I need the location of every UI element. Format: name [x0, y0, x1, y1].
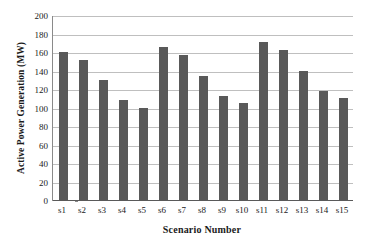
bar-chart: Active Power Generation (MW) 02040608010…: [0, 0, 369, 248]
y-tick-label: 180: [26, 30, 48, 39]
x-axis-tick-labels: s1s2s3s4s5s6s7s8s9s10s11s12s13s14s15: [52, 205, 352, 217]
x-tick-label: s13: [296, 205, 309, 216]
x-axis-title: Scenario Number: [52, 224, 352, 235]
x-tick-label: s1: [58, 205, 66, 216]
x-tick-label: s14: [316, 205, 329, 216]
x-tick-label: s6: [158, 205, 166, 216]
bar: [199, 76, 208, 201]
x-tick-label: s10: [236, 205, 249, 216]
x-tick-label: s12: [276, 205, 289, 216]
bars-layer: [53, 16, 353, 201]
bar: [59, 52, 68, 201]
bar: [179, 55, 188, 201]
y-tick-label: 80: [26, 123, 48, 132]
bar: [339, 98, 348, 201]
bar: [139, 108, 148, 201]
bar: [259, 42, 268, 201]
y-tick-label: 120: [26, 86, 48, 95]
y-tick-label: 160: [26, 49, 48, 58]
y-tick-label: 100: [26, 104, 48, 113]
bar: [119, 100, 128, 201]
y-tick-label: 20: [26, 178, 48, 187]
x-tick-label: s2: [78, 205, 86, 216]
y-tick-label: 0: [26, 197, 48, 206]
y-tick-label: 140: [26, 67, 48, 76]
bar: [239, 103, 248, 201]
y-axis-tick-labels: 020406080100120140160180200: [26, 16, 48, 201]
bar: [79, 60, 88, 201]
bar: [319, 91, 328, 201]
y-tick-label: 40: [26, 160, 48, 169]
x-tick-label: s5: [138, 205, 146, 216]
x-tick-label: s7: [178, 205, 186, 216]
y-tick-label: 200: [26, 12, 48, 21]
x-tick-label: s9: [218, 205, 226, 216]
bar: [99, 80, 108, 201]
x-tick-label: s3: [98, 205, 106, 216]
plot-area: [52, 16, 352, 201]
x-tick-label: s15: [336, 205, 349, 216]
bar: [159, 47, 168, 201]
bar: [299, 71, 308, 201]
bar: [279, 50, 288, 201]
x-tick-label: s4: [118, 205, 126, 216]
x-tick-label: s8: [198, 205, 206, 216]
x-tick-label: s11: [256, 205, 268, 216]
bar: [219, 96, 228, 201]
y-tick-label: 60: [26, 141, 48, 150]
